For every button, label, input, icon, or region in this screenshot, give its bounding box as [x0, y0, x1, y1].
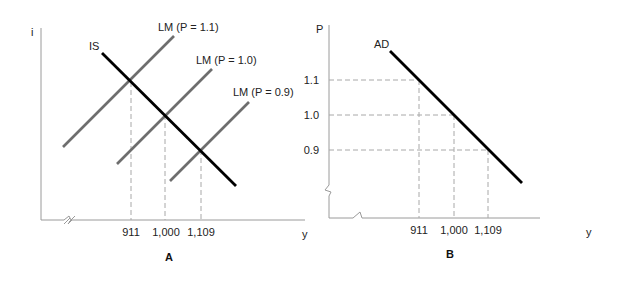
- panel-a-x-tick-1109: 1,109: [187, 226, 215, 238]
- panel-b-x-axis-label: y: [586, 226, 592, 238]
- lm-label-p-0-9: LM (P = 0.9): [233, 86, 294, 98]
- panel-b-y-tick-0-9: 0.9: [304, 144, 319, 156]
- panel-b-chart: P y AD 1.1 1.0 0.9 911 1,000 1,109 B: [304, 23, 592, 260]
- ad-curve-label: AD: [374, 38, 389, 50]
- panel-b-y-axis-label: P: [316, 23, 323, 35]
- panel-b-x-tick-1109: 1,109: [474, 224, 502, 236]
- panel-b-label: B: [446, 248, 454, 260]
- panel-a-label: A: [165, 251, 173, 263]
- panel-a-y-axis-label: i: [31, 26, 33, 38]
- panel-a-x-tick-1000: 1,000: [152, 226, 180, 238]
- panel-b-y-axis: [325, 25, 331, 218]
- lm-curve-p-0-9: [170, 102, 249, 181]
- panel-a-x-axis: [41, 216, 305, 224]
- panel-a-x-tick-911: 911: [122, 226, 140, 238]
- figure: i y IS LM (P = 1.1) LM (P = 1.0) LM (P =…: [0, 0, 624, 281]
- ad-curve: [390, 51, 522, 183]
- panel-b-x-tick-911: 911: [410, 224, 428, 236]
- is-curve: [102, 53, 236, 186]
- panel-b-y-tick-1-1: 1.1: [304, 74, 319, 86]
- lm-label-p-1-1: LM (P = 1.1): [158, 21, 219, 33]
- lm-curve-p-1-1: [63, 36, 174, 147]
- lm-label-p-1-0: LM (P = 1.0): [196, 54, 257, 66]
- is-curve-label: IS: [89, 40, 99, 52]
- panel-b-y-tick-1-0: 1.0: [304, 109, 319, 121]
- panel-b-x-axis: [329, 212, 540, 218]
- panel-a-chart: i y IS LM (P = 1.1) LM (P = 1.0) LM (P =…: [31, 21, 308, 263]
- panel-b-x-tick-1000: 1,000: [440, 224, 468, 236]
- panel-a-x-axis-label: y: [302, 228, 308, 240]
